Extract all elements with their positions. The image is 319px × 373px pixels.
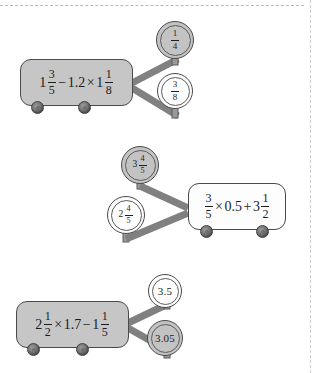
denominator: 5 (101, 326, 109, 339)
expression-3: 2 1 2 × 1.7 − 1 1 5 (35, 310, 109, 338)
operator-times: × (54, 318, 62, 332)
expression-cart-3[interactable]: 2 1 2 × 1.7 − 1 1 5 (16, 301, 129, 348)
cart-wheel (76, 343, 89, 356)
operator-minus: − (83, 318, 91, 332)
fraction: 1 5 (101, 310, 109, 338)
numerator: 1 (44, 310, 52, 323)
answer-token-3-05[interactable]: 3.05 (147, 320, 183, 356)
whole-number: 2 (35, 318, 42, 332)
numerator: 1 (101, 310, 109, 323)
whole-number: 1 (92, 318, 99, 332)
denominator: 2 (44, 326, 52, 339)
token-value-2: 3.05 (155, 333, 175, 344)
worksheet-page: 1 3 5 − 1.2 × 1 1 8 (0, 0, 319, 373)
answer-token-3-5[interactable]: 3.5 (148, 274, 182, 308)
decimal-value: 1.7 (64, 318, 82, 332)
fraction: 1 2 (44, 310, 52, 338)
token-value-1: 3.5 (158, 286, 172, 297)
cart-wheel (27, 343, 40, 356)
